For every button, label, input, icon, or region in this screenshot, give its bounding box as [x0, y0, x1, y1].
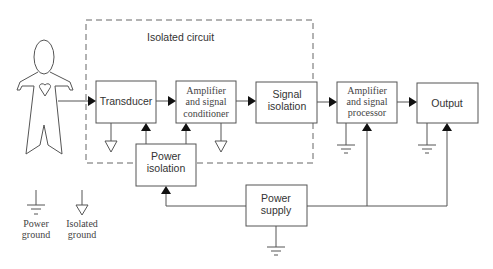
- svg-text:Output: Output: [431, 97, 463, 109]
- amplifier-signal-conditioner-block: Amplifier and signal conditioner: [176, 81, 236, 123]
- svg-text:Signal: Signal: [272, 88, 301, 100]
- svg-text:and signal: and signal: [186, 96, 227, 107]
- svg-text:processor: processor: [348, 107, 387, 118]
- power-ground-icon: [418, 123, 436, 153]
- power-ground-icon: [337, 123, 355, 153]
- svg-text:Power: Power: [261, 192, 291, 204]
- legend-isolated-ground-label: Isolated: [66, 218, 98, 229]
- svg-text:Amplifier: Amplifier: [186, 85, 226, 96]
- isolated-amplifier-block-diagram: Isolated circuit Transducer Amplifier an…: [0, 0, 493, 269]
- svg-text:supply: supply: [261, 204, 292, 216]
- amplifier-signal-processor-block: Amplifier and signal processor: [337, 82, 397, 123]
- legend-isolated-ground: Isolated ground: [66, 190, 98, 240]
- isolated-circuit-label: Isolated circuit: [147, 31, 214, 43]
- legend-power-ground-label: Power: [23, 218, 49, 229]
- svg-text:Transducer: Transducer: [100, 95, 153, 107]
- output-block: Output: [417, 83, 478, 123]
- legend-power-ground: Power ground: [22, 190, 50, 240]
- transducer-block: Transducer: [96, 81, 156, 123]
- power-ground-icon: [267, 226, 285, 255]
- isolated-ground-icon: [215, 123, 227, 152]
- isolated-power-connectors: [141, 123, 191, 144]
- svg-text:ground: ground: [22, 229, 50, 240]
- svg-text:Amplifier: Amplifier: [347, 85, 387, 96]
- svg-text:ground: ground: [68, 229, 96, 240]
- power-supply-block: Power supply: [246, 185, 307, 226]
- power-isolation-block: Power isolation: [136, 144, 196, 186]
- svg-text:Power: Power: [151, 150, 181, 162]
- signal-isolation-block: Signal isolation: [256, 82, 317, 123]
- isolated-ground-icon: [105, 123, 117, 152]
- svg-text:isolation: isolation: [268, 100, 307, 112]
- svg-text:and signal: and signal: [347, 96, 388, 107]
- svg-text:conditioner: conditioner: [183, 108, 229, 119]
- human-figure-icon: [17, 40, 73, 154]
- svg-text:isolation: isolation: [147, 162, 186, 174]
